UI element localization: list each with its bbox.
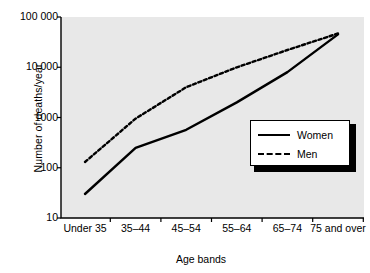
legend-line-sample-solid-icon — [258, 134, 290, 136]
legend-label: Men — [297, 147, 317, 161]
x-tick-label: 75 and over — [306, 222, 370, 234]
y-tick-label: 10 — [46, 212, 58, 222]
legend-label: Women — [297, 128, 333, 142]
chart-legend: Women Men — [250, 120, 350, 166]
y-axis-title: Number of deaths/year — [32, 18, 44, 218]
x-axis-title: Age bands — [61, 253, 341, 265]
plot-background — [61, 17, 364, 218]
legend-line-sample-dashed-icon — [258, 153, 290, 155]
